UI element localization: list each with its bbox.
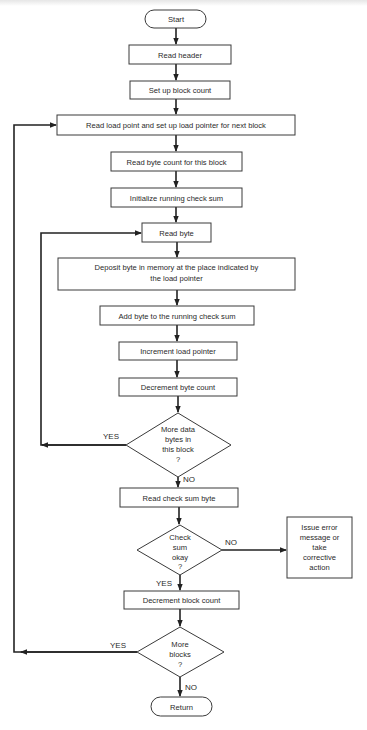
node-checksum-line-2: sum — [173, 543, 187, 552]
node-decrement-block-count: Decrement block count — [124, 591, 239, 609]
node-checksum-okay: Check sum okay ? — [137, 525, 222, 575]
node-more-blocks-line-3: ? — [178, 660, 182, 669]
node-read-header-label: Read header — [158, 51, 202, 60]
node-more-blocks-line-1: More — [171, 640, 188, 649]
label-more-blocks-yes: YES — [110, 641, 126, 650]
node-issue-error-line-3: take — [312, 543, 326, 552]
node-read-byte-count: Read byte count for this block — [111, 152, 242, 171]
node-deposit-byte: Deposit byte in memory at the place indi… — [58, 258, 295, 290]
node-deposit-byte-line-1: Deposit byte in memory at the place indi… — [95, 263, 259, 272]
node-read-checksum-byte-label: Read check sum byte — [142, 494, 215, 503]
node-checksum-line-3: okay — [172, 553, 188, 562]
node-issue-error: Issue error message or take corrective a… — [287, 517, 352, 578]
label-check-no: NO — [225, 538, 237, 547]
node-decrement-byte-count-label: Decrement byte count — [141, 383, 216, 392]
node-read-header: Read header — [129, 45, 231, 64]
node-more-data-bytes: More data bytes in this block ? — [126, 413, 231, 477]
node-setup-block-count: Set up block count — [130, 81, 230, 99]
node-init-checksum: Initialize running check sum — [111, 188, 242, 207]
node-issue-error-line-4: corrective — [303, 553, 336, 562]
node-more-blocks: More blocks ? — [137, 627, 224, 677]
label-more-data-yes: YES — [103, 432, 119, 441]
label-more-data-no: NO — [183, 475, 195, 484]
node-increment-load-pointer: Increment load pointer — [119, 342, 237, 360]
node-issue-error-line-5: action — [309, 563, 329, 572]
node-more-data-line-3: this block — [162, 445, 194, 454]
node-more-data-line-4: ? — [176, 455, 180, 464]
node-more-data-line-2: bytes in — [165, 435, 191, 444]
node-read-byte-label: Read byte — [159, 229, 194, 238]
node-decrement-block-count-label: Decrement block count — [143, 596, 222, 605]
node-read-byte-count-label: Read byte count for this block — [126, 158, 226, 167]
node-checksum-line-1: Check — [169, 533, 191, 542]
flowchart: YES NO NO YES YES NO Start Read header S… — [0, 0, 367, 730]
node-more-blocks-line-2: blocks — [169, 650, 191, 659]
label-more-blocks-no: NO — [185, 683, 197, 692]
node-issue-error-line-2: message or — [300, 533, 340, 542]
node-increment-load-pointer-label: Increment load pointer — [140, 347, 216, 356]
node-read-byte: Read byte — [142, 223, 211, 242]
node-return: Return — [151, 697, 212, 716]
node-start: Start — [145, 10, 206, 28]
label-check-yes: YES — [156, 579, 172, 588]
node-decrement-byte-count: Decrement byte count — [119, 378, 237, 396]
node-add-byte-label: Add byte to the running check sum — [119, 312, 236, 321]
node-return-label: Return — [170, 703, 193, 712]
node-more-data-line-1: More data — [161, 425, 196, 434]
node-read-checksum-byte: Read check sum byte — [120, 488, 238, 507]
node-add-byte: Add byte to the running check sum — [100, 306, 254, 325]
node-start-label: Start — [168, 15, 185, 24]
node-init-checksum-label: Initialize running check sum — [130, 194, 223, 203]
node-deposit-byte-line-2: the load pointer — [150, 274, 203, 283]
node-read-load-point-label: Read load point and set up load pointer … — [86, 121, 266, 130]
node-read-load-point: Read load point and set up load pointer … — [57, 115, 295, 135]
node-issue-error-line-1: Issue error — [301, 523, 338, 532]
node-checksum-line-4: ? — [178, 562, 182, 571]
node-setup-block-count-label: Set up block count — [149, 86, 212, 95]
